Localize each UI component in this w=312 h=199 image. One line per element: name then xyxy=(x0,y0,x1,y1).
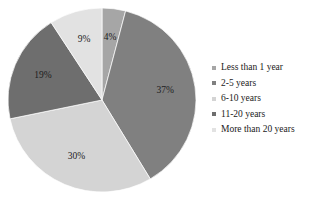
pie-slice-value-label: 37% xyxy=(157,85,175,95)
pie-chart-svg: 4%37%30%19%9% xyxy=(5,6,197,194)
legend-item-label: Less than 1 year xyxy=(221,63,283,73)
legend-item[interactable]: More than 20 years xyxy=(212,122,312,138)
legend-item-label: 2-5 years xyxy=(221,79,256,89)
pie-slice-value-label: 4% xyxy=(104,32,117,42)
legend-swatch-icon xyxy=(212,81,216,85)
legend-item-label: 6-10 years xyxy=(221,94,261,104)
pie-chart-plot-area: 4%37%30%19%9% xyxy=(5,6,197,194)
pie-slice-group xyxy=(8,8,196,192)
legend-swatch-icon xyxy=(212,112,216,116)
legend-swatch-icon xyxy=(212,128,216,132)
chart-legend: Less than 1 year2-5 years6-10 years11-20… xyxy=(212,60,312,138)
legend-swatch-icon xyxy=(212,66,216,70)
legend-item[interactable]: 11-20 years xyxy=(212,107,312,123)
legend-item[interactable]: 2-5 years xyxy=(212,76,312,92)
pie-slice-value-label: 30% xyxy=(68,151,86,161)
pie-slice-value-label: 19% xyxy=(34,70,52,80)
legend-item-label: More than 20 years xyxy=(221,125,295,135)
pie-chart-figure: 4%37%30%19%9% Less than 1 year2-5 years6… xyxy=(0,0,312,199)
legend-swatch-icon xyxy=(212,97,216,101)
legend-item-label: 11-20 years xyxy=(221,110,265,120)
legend-item[interactable]: Less than 1 year xyxy=(212,60,312,76)
legend-item[interactable]: 6-10 years xyxy=(212,91,312,107)
pie-slice-value-label: 9% xyxy=(78,34,91,44)
